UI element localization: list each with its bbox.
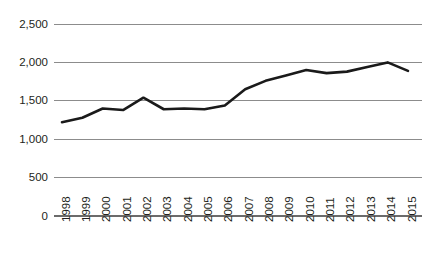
x-tick-label: 2011 [324, 197, 336, 222]
x-tick-label: 2007 [243, 196, 255, 222]
y-tick-label: 500 [29, 171, 48, 183]
y-tick-label: 1,000 [19, 133, 48, 145]
y-tick-label: 2,000 [19, 56, 48, 68]
x-axis-tick-labels: 1998199920002001200220032004200520062007… [60, 196, 418, 222]
x-tick-label: 2001 [121, 196, 133, 222]
x-tick-label: 1998 [60, 196, 72, 222]
x-tick-label: 2015 [406, 196, 418, 222]
x-tick-label: 2002 [141, 196, 153, 222]
x-tick-label: 2003 [161, 196, 173, 222]
x-tick-label: 2008 [263, 196, 275, 222]
x-tick-label: 2000 [100, 196, 112, 222]
chart-canvas: 05001,0001,5002,0002,500 199819992000200… [0, 0, 430, 262]
y-axis-tick-labels: 05001,0001,5002,0002,500 [19, 18, 48, 222]
series-line-0 [62, 62, 408, 122]
x-tick-label: 1999 [80, 196, 92, 222]
x-tick-label: 2013 [365, 196, 377, 222]
x-tick-label: 2014 [385, 196, 397, 222]
x-tick-label: 2009 [283, 196, 295, 222]
x-tick-label: 2006 [222, 196, 234, 222]
gridlines [54, 24, 422, 216]
x-tick-label: 2012 [344, 196, 356, 222]
line-chart: 05001,0001,5002,0002,500 199819992000200… [0, 0, 430, 262]
x-tick-label: 2010 [304, 196, 316, 222]
y-tick-label: 1,500 [19, 94, 48, 106]
y-tick-label: 0 [42, 210, 48, 222]
x-tick-label: 2005 [202, 196, 214, 222]
data-series-group [62, 62, 408, 122]
x-tick-label: 2004 [182, 196, 194, 222]
y-tick-label: 2,500 [19, 18, 48, 30]
